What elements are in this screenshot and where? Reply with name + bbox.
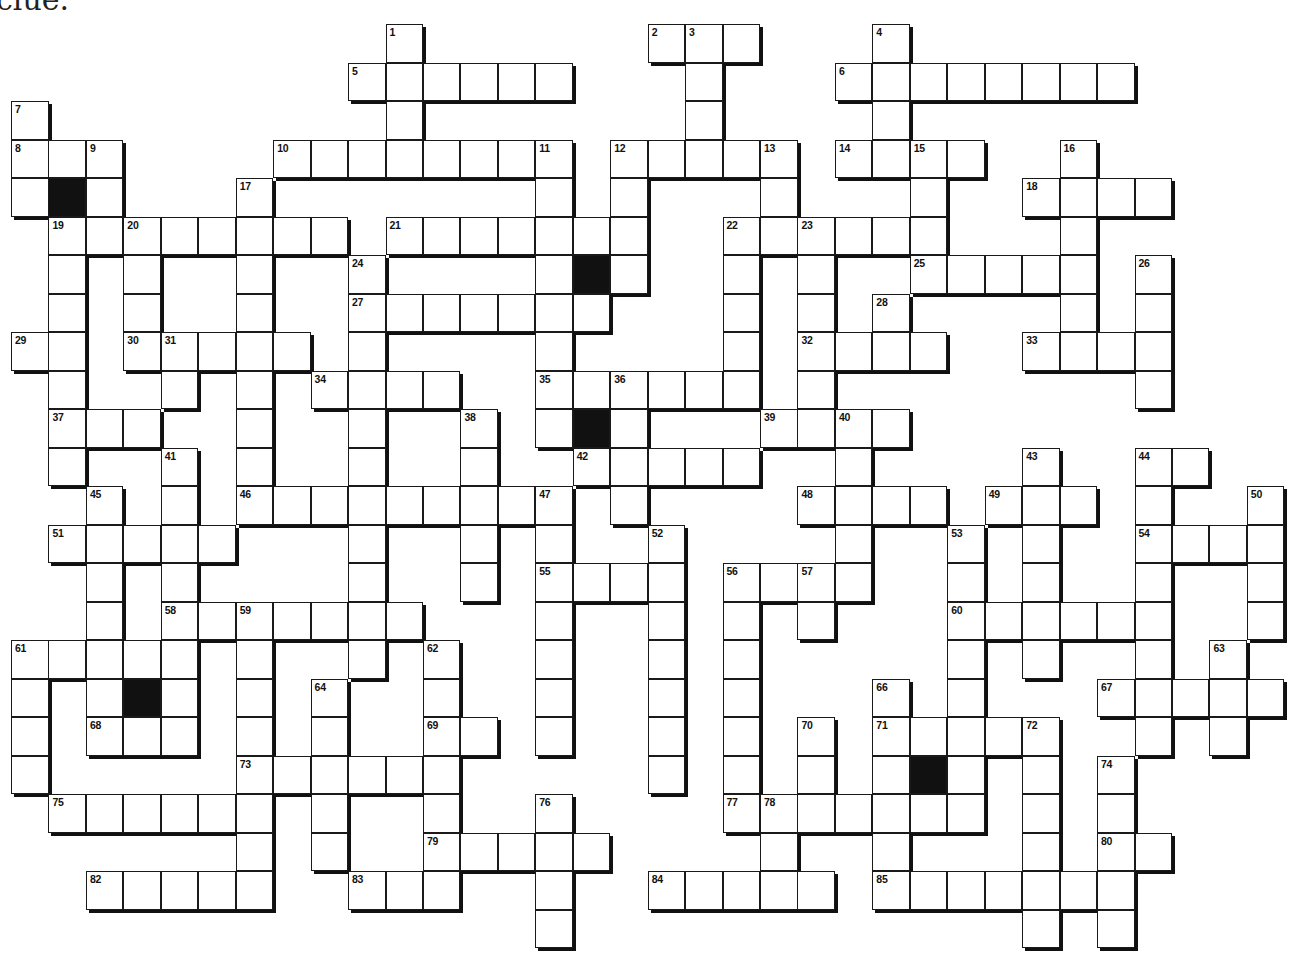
crossword-cell[interactable]: [348, 602, 386, 641]
crossword-cell[interactable]: [723, 640, 761, 679]
crossword-cell[interactable]: [723, 371, 761, 410]
crossword-cell[interactable]: [797, 602, 835, 641]
crossword-cell[interactable]: [947, 640, 985, 679]
crossword-cell[interactable]: [723, 679, 761, 718]
crossword-cell[interactable]: [535, 679, 573, 718]
crossword-cell[interactable]: [535, 178, 573, 217]
crossword-cell[interactable]: [11, 756, 49, 795]
crossword-cell[interactable]: [723, 871, 761, 910]
crossword-cell[interactable]: [1172, 448, 1210, 487]
crossword-cell[interactable]: [498, 833, 536, 872]
crossword-cell[interactable]: [348, 332, 386, 371]
crossword-cell[interactable]: 30: [123, 332, 161, 371]
crossword-cell[interactable]: 17: [236, 178, 274, 217]
crossword-cell[interactable]: 23: [797, 217, 835, 256]
crossword-cell[interactable]: [386, 871, 424, 910]
crossword-cell[interactable]: [311, 486, 349, 525]
crossword-cell[interactable]: [460, 717, 498, 756]
crossword-cell[interactable]: 15: [910, 140, 948, 179]
crossword-cell[interactable]: 62: [423, 640, 461, 679]
crossword-cell[interactable]: [872, 101, 910, 140]
crossword-cell[interactable]: [723, 24, 761, 63]
crossword-cell[interactable]: [498, 140, 536, 179]
crossword-cell[interactable]: [648, 602, 686, 641]
crossword-cell[interactable]: 74: [1097, 756, 1135, 795]
crossword-cell[interactable]: [498, 217, 536, 256]
crossword-cell[interactable]: [985, 602, 1023, 641]
crossword-cell[interactable]: [161, 371, 199, 410]
crossword-cell[interactable]: [423, 794, 461, 833]
crossword-cell[interactable]: [573, 294, 611, 333]
crossword-cell[interactable]: [348, 448, 386, 487]
crossword-cell[interactable]: [872, 332, 910, 371]
crossword-cell[interactable]: [236, 794, 274, 833]
crossword-cell[interactable]: 85: [872, 871, 910, 910]
crossword-cell[interactable]: 84: [648, 871, 686, 910]
crossword-cell[interactable]: [161, 525, 199, 564]
crossword-cell[interactable]: [423, 871, 461, 910]
crossword-cell[interactable]: [386, 294, 424, 333]
crossword-cell[interactable]: [311, 756, 349, 795]
crossword-cell[interactable]: [648, 640, 686, 679]
crossword-cell[interactable]: [1022, 525, 1060, 564]
crossword-cell[interactable]: [835, 794, 873, 833]
crossword-cell[interactable]: [86, 640, 124, 679]
crossword-cell[interactable]: 12: [610, 140, 648, 179]
crossword-cell[interactable]: [535, 640, 573, 679]
crossword-cell[interactable]: [835, 217, 873, 256]
crossword-cell[interactable]: [1060, 63, 1098, 102]
crossword-cell[interactable]: [947, 563, 985, 602]
crossword-cell[interactable]: [872, 756, 910, 795]
crossword-cell[interactable]: [985, 63, 1023, 102]
crossword-cell[interactable]: 69: [423, 717, 461, 756]
crossword-cell[interactable]: [123, 871, 161, 910]
crossword-cell[interactable]: [48, 294, 86, 333]
crossword-cell[interactable]: [348, 140, 386, 179]
crossword-cell[interactable]: [161, 794, 199, 833]
crossword-cell[interactable]: [236, 217, 274, 256]
crossword-cell[interactable]: [535, 332, 573, 371]
crossword-cell[interactable]: [797, 371, 835, 410]
crossword-cell[interactable]: [573, 371, 611, 410]
crossword-cell[interactable]: [872, 140, 910, 179]
crossword-cell[interactable]: 19: [48, 217, 86, 256]
crossword-cell[interactable]: [1172, 679, 1210, 718]
crossword-cell[interactable]: [423, 217, 461, 256]
crossword-cell[interactable]: [1247, 602, 1285, 641]
crossword-cell[interactable]: [11, 679, 49, 718]
crossword-cell[interactable]: [610, 563, 648, 602]
crossword-cell[interactable]: [648, 448, 686, 487]
crossword-cell[interactable]: [198, 794, 236, 833]
crossword-cell[interactable]: 78: [760, 794, 798, 833]
crossword-cell[interactable]: 71: [872, 717, 910, 756]
crossword-cell[interactable]: [386, 101, 424, 140]
crossword-cell[interactable]: [985, 871, 1023, 910]
crossword-cell[interactable]: 59: [236, 602, 274, 641]
crossword-cell[interactable]: [985, 717, 1023, 756]
crossword-cell[interactable]: 66: [872, 679, 910, 718]
crossword-cell[interactable]: [348, 640, 386, 679]
crossword-cell[interactable]: 55: [535, 563, 573, 602]
crossword-cell[interactable]: [835, 486, 873, 525]
crossword-cell[interactable]: [161, 679, 199, 718]
crossword-cell[interactable]: [1247, 563, 1285, 602]
crossword-cell[interactable]: [386, 756, 424, 795]
crossword-cell[interactable]: [872, 794, 910, 833]
crossword-cell[interactable]: [11, 717, 49, 756]
crossword-cell[interactable]: 21: [386, 217, 424, 256]
crossword-cell[interactable]: [760, 833, 798, 872]
crossword-cell[interactable]: [236, 255, 274, 294]
crossword-cell[interactable]: [835, 563, 873, 602]
crossword-cell[interactable]: 80: [1097, 833, 1135, 872]
crossword-cell[interactable]: [236, 833, 274, 872]
crossword-cell[interactable]: [460, 140, 498, 179]
crossword-cell[interactable]: [460, 833, 498, 872]
crossword-cell[interactable]: [1135, 717, 1173, 756]
crossword-cell[interactable]: [460, 448, 498, 487]
crossword-cell[interactable]: [535, 833, 573, 872]
crossword-cell[interactable]: [498, 486, 536, 525]
crossword-cell[interactable]: [797, 756, 835, 795]
crossword-cell[interactable]: [535, 717, 573, 756]
crossword-cell[interactable]: 2: [648, 24, 686, 63]
crossword-cell[interactable]: 38: [460, 409, 498, 448]
